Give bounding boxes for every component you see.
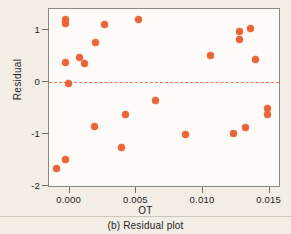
- data-point: [247, 25, 254, 32]
- plot-area: [48, 8, 280, 187]
- data-point: [62, 156, 69, 163]
- data-point: [122, 111, 129, 118]
- data-point: [242, 124, 249, 131]
- plot-canvas: [49, 9, 279, 186]
- zero-reference-line: [49, 82, 279, 83]
- x-axis-tick: [269, 187, 270, 193]
- data-point: [91, 123, 98, 130]
- y-axis-tick-label: -1: [2, 128, 40, 139]
- residual-plot-figure: 10-1-2 0.0000.0050.0100.015 Residual OT …: [0, 0, 291, 234]
- y-axis-tick: [42, 81, 49, 82]
- x-axis-title: OT: [0, 205, 291, 216]
- data-point: [62, 59, 69, 66]
- data-point: [264, 111, 271, 118]
- y-axis-tick-label: 1: [2, 23, 40, 34]
- y-axis-tick: [42, 29, 49, 30]
- data-point: [62, 20, 69, 27]
- data-point: [118, 144, 125, 151]
- data-point: [135, 16, 142, 23]
- data-point: [65, 80, 72, 87]
- data-point: [207, 52, 214, 59]
- data-point: [236, 28, 243, 35]
- figure-caption: (b) Residual plot: [0, 220, 291, 231]
- data-point: [152, 97, 159, 104]
- x-axis-tick-label: 0.015: [246, 194, 291, 205]
- y-axis-title: Residual: [12, 35, 23, 125]
- data-point: [182, 131, 189, 138]
- data-point: [236, 36, 243, 43]
- y-axis-tick: [42, 185, 49, 186]
- x-axis-tick-label: 0.000: [46, 194, 92, 205]
- data-point: [53, 165, 60, 172]
- x-axis-tick-label: 0.010: [179, 194, 225, 205]
- y-axis-tick: [42, 133, 49, 134]
- caption-divider: [0, 216, 291, 217]
- x-axis-tick: [69, 187, 70, 193]
- x-axis-tick: [202, 187, 203, 193]
- data-point: [101, 21, 108, 28]
- x-axis-tick-label: 0.005: [112, 194, 158, 205]
- y-axis-tick-label: -2: [2, 180, 40, 191]
- x-axis-tick: [135, 187, 136, 193]
- data-point: [81, 60, 88, 67]
- data-point: [252, 56, 259, 63]
- data-point: [92, 39, 99, 46]
- data-point: [230, 130, 237, 137]
